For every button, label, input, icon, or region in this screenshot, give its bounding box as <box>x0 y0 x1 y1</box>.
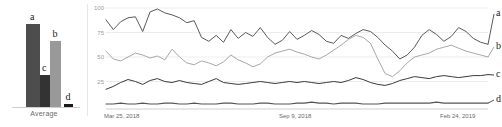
y-tick-100: 100 <box>88 5 104 11</box>
series-label-d: d <box>496 94 501 104</box>
timeseries-line-chart-panel: 100755025abcdMar 25, 2018Sep 9, 2018Feb … <box>88 0 502 127</box>
bar-plot-area: acbd <box>0 0 88 108</box>
leader-line-d <box>488 100 494 103</box>
bar-c[interactable] <box>40 75 50 107</box>
y-tick-75: 75 <box>88 30 104 36</box>
bar-label-d: d <box>66 92 71 102</box>
trends-comparison-view: acbd Average 100755025abcdMar 25, 2018Se… <box>0 0 502 127</box>
series-label-b: b <box>496 41 501 51</box>
bar-label-b: b <box>53 29 58 39</box>
x-tick-0: Mar 25, 2018 <box>104 113 139 119</box>
x-tick-1: Sep 9, 2018 <box>279 113 311 119</box>
bar-label-a: a <box>30 12 34 22</box>
series-line-a[interactable] <box>106 9 488 59</box>
bar-baseline-axis <box>12 107 80 108</box>
bar-b[interactable] <box>50 41 61 107</box>
y-tick-25: 25 <box>88 79 104 85</box>
line-chart-svg <box>88 0 502 127</box>
bar-label-c: c <box>42 63 46 73</box>
x-tick-2: Feb 24, 2019 <box>440 113 475 119</box>
y-tick-50: 50 <box>88 54 104 60</box>
bar-axis-label: Average <box>0 110 88 117</box>
leader-line-b <box>488 47 494 57</box>
series-label-c: c <box>496 69 500 79</box>
bar-a[interactable] <box>26 24 40 107</box>
leader-line-a <box>488 14 494 44</box>
average-bar-chart-panel: acbd Average <box>0 0 88 127</box>
series-line-b[interactable] <box>106 35 488 76</box>
series-line-d[interactable] <box>106 102 488 104</box>
series-label-a: a <box>496 8 500 18</box>
series-leader-lines <box>488 14 494 103</box>
gridlines <box>106 8 488 82</box>
